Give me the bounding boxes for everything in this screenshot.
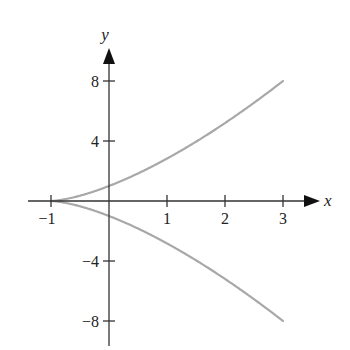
y-axis-label: y [99,25,109,44]
x-tick-label: 2 [221,210,229,227]
y-axis-arrow-icon [103,48,115,64]
x-axis-label: x [323,191,332,210]
y-tick-label: 4 [91,133,99,150]
plot-area: xy−112384−4−8 [0,0,350,350]
upper-curve [51,81,283,201]
x-tick-label: 3 [279,210,287,227]
x-tick-label: 1 [163,210,171,227]
y-tick-label: −8 [82,313,99,330]
x-axis-arrow-icon [304,195,320,207]
y-tick-label: −4 [82,253,99,270]
chart: xy−112384−4−8 [0,0,350,350]
x-tick-label: −1 [38,210,55,227]
y-tick-label: 8 [91,73,99,90]
